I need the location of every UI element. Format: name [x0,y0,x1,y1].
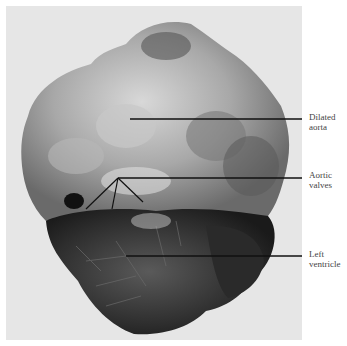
label-dilated-aorta: Dilated aorta [309,112,336,132]
label-leader-lines [6,6,302,340]
label-line: Left [309,249,340,259]
label-line: Dilated [309,112,336,122]
label-line: ventricle [309,259,340,269]
label-aortic-valves: Aortic valves [309,170,332,190]
specimen-photo [6,6,302,340]
label-line: aorta [309,122,336,132]
label-line: valves [309,180,332,190]
label-line: Aortic [309,170,332,180]
label-left-ventricle: Left ventricle [309,249,340,269]
